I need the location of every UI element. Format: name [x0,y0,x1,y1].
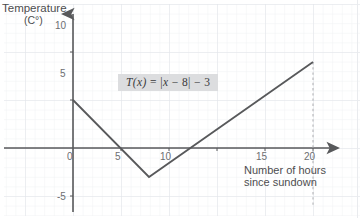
equation-fn: T [126,76,133,88]
x-tick-label-10: 10 [160,151,171,162]
equation-inner-var: x [163,76,169,88]
x-tick-label-15: 15 [256,151,267,162]
absolute-value-function-graph: Temperature (C°) Number of hours since s… [0,0,364,218]
equation-fn-arg: (x) [133,76,147,88]
y-tick-label-5: 5 [60,68,66,79]
y-axis-unit: (C°) [24,15,43,27]
equation-equals: = [150,76,157,88]
x-tick-label-5: 5 [115,151,121,162]
equation-outer-num: 3 [204,76,210,88]
y-tick-label-10: 10 [55,20,66,31]
x-tick-label-20: 20 [304,151,315,162]
equation-outer-op: − [194,76,201,88]
x-axis-title: Number of hours since sundown [244,164,326,189]
x-tick-label-0: 0 [67,151,73,162]
y-axis-title: Temperature [2,2,67,15]
equation-annotation: T(x) = |x − 8| − 3 [118,74,218,91]
equation-inner-op: − [172,76,179,88]
y-tick-label-neg5: -5 [57,191,66,202]
x-axis-title-line2: since sundown [244,176,326,188]
equation-abs-close: | [188,76,191,88]
x-axis-title-line1: Number of hours [244,164,326,176]
